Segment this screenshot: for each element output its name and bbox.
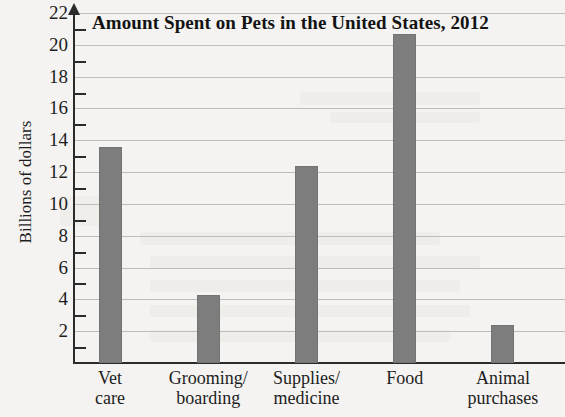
y-axis-minor-tick <box>75 283 86 285</box>
y-axis-tick-label: 2 <box>22 321 68 340</box>
y-axis-minor-tick <box>75 61 86 63</box>
chart-page: 222018161412108642 Billions of dollars A… <box>0 0 565 417</box>
gridline <box>74 204 565 205</box>
bar <box>295 166 318 363</box>
chart-title: Amount Spent on Pets in the United State… <box>92 12 489 34</box>
gridline <box>74 77 565 78</box>
gridline <box>74 140 565 141</box>
y-axis-minor-tick <box>75 347 86 349</box>
y-axis-tick-label: 4 <box>22 289 68 308</box>
y-axis-minor-tick <box>75 188 86 190</box>
x-axis-category-label: Food <box>356 368 454 388</box>
plot-area <box>74 13 565 363</box>
y-axis-minor-tick <box>75 124 86 126</box>
y-axis-minor-tick <box>75 29 86 31</box>
bar <box>491 325 514 363</box>
y-axis-tick-label: 20 <box>22 35 68 54</box>
y-axis-minor-tick <box>75 156 86 158</box>
x-axis-category-label: Vet care <box>61 368 159 408</box>
gridline <box>74 268 565 269</box>
x-axis-category-label: Supplies/ medicine <box>257 368 355 408</box>
bar <box>99 147 122 363</box>
y-axis-title: Billions of dollars <box>16 82 36 282</box>
y-axis-tick-label: 22 <box>22 3 68 22</box>
gridline <box>74 172 565 173</box>
x-axis-category-label: Animal purchases <box>454 368 552 408</box>
gridline <box>74 45 565 46</box>
gridline <box>74 108 565 109</box>
y-axis-minor-tick <box>75 220 86 222</box>
y-axis-arrow <box>68 3 80 15</box>
y-axis-minor-tick <box>75 315 86 317</box>
x-axis-category-label: Grooming/ boarding <box>159 368 257 408</box>
bar <box>197 295 220 363</box>
gridline <box>74 236 565 237</box>
y-axis-minor-tick <box>75 252 86 254</box>
y-axis-minor-tick <box>75 93 86 95</box>
gridline <box>74 299 565 300</box>
bar <box>393 34 416 363</box>
